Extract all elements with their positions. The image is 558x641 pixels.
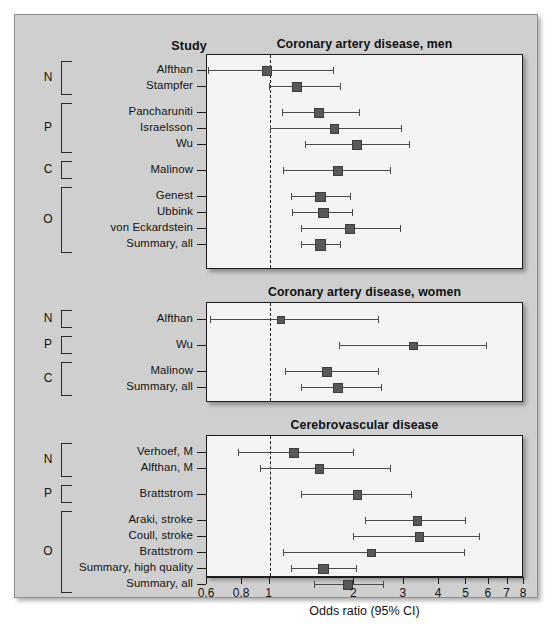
- x-axis-tick: [488, 577, 489, 584]
- ci-cap-lower: [291, 193, 292, 200]
- row-tick: [197, 196, 206, 197]
- ci-cap-lower: [301, 241, 302, 248]
- row-tick: [197, 144, 206, 145]
- ci-cap-upper: [390, 167, 391, 174]
- ci-cap-lower: [292, 209, 293, 216]
- ci-cap-upper: [352, 209, 353, 216]
- ci-cap-lower: [301, 225, 302, 232]
- study-label: Brattstrom: [139, 487, 193, 499]
- x-axis-tick: [403, 577, 404, 584]
- row-tick: [197, 371, 206, 372]
- row-tick: [197, 552, 206, 553]
- row-tick: [197, 468, 206, 469]
- ci-cap-lower: [301, 384, 302, 391]
- ci-cap-upper: [356, 565, 357, 572]
- ci-cap-lower: [238, 449, 239, 456]
- x-axis-tick: [206, 577, 207, 584]
- confidence-interval: [260, 468, 390, 469]
- plot-area: [206, 54, 523, 269]
- ci-cap-lower: [285, 368, 286, 375]
- ci-cap-upper: [378, 316, 379, 323]
- study-label: Summary, all: [126, 380, 193, 392]
- ci-cap-lower: [353, 533, 354, 540]
- ci-cap-lower: [282, 109, 283, 116]
- ci-cap-upper: [340, 83, 341, 90]
- odds-ratio-marker: [314, 108, 324, 118]
- study-label: Wu: [176, 338, 193, 350]
- row-tick: [197, 319, 206, 320]
- x-axis-tick-label: 2: [338, 586, 368, 600]
- ci-cap-upper: [464, 549, 465, 556]
- row-tick: [197, 170, 206, 171]
- study-label: Summary, all: [126, 237, 193, 249]
- row-tick: [197, 212, 206, 213]
- odds-ratio-marker: [415, 532, 424, 541]
- row-tick: [197, 568, 206, 569]
- study-label: Alfthan: [157, 63, 193, 75]
- ci-cap-upper: [350, 193, 351, 200]
- ci-cap-lower: [210, 316, 211, 323]
- group-bracket: [61, 187, 72, 253]
- study-label: Genest: [156, 189, 193, 201]
- ci-cap-lower: [339, 342, 340, 349]
- figure-frame: Study Coronary artery disease, menAlftha…: [14, 14, 538, 598]
- study-label: Malinow: [151, 163, 193, 175]
- ci-cap-upper: [353, 449, 354, 456]
- ci-cap-upper: [409, 141, 410, 148]
- group-letter: N: [41, 452, 55, 466]
- x-axis-tick: [438, 577, 439, 584]
- ci-cap-lower: [269, 83, 270, 90]
- x-axis-tick-label: 0.8: [226, 586, 256, 600]
- ci-cap-upper: [411, 491, 412, 498]
- ci-cap-upper: [333, 67, 334, 74]
- ci-cap-upper: [390, 465, 391, 472]
- odds-ratio-marker: [409, 342, 418, 351]
- study-label: Alfthan: [157, 312, 193, 324]
- ci-cap-upper: [340, 241, 341, 248]
- odds-ratio-marker: [333, 383, 343, 393]
- group-letter: O: [41, 544, 55, 558]
- null-reference-line: [270, 303, 271, 401]
- forest-plot-figure: Study Coronary artery disease, menAlftha…: [0, 0, 558, 641]
- odds-ratio-marker: [315, 192, 326, 203]
- ci-cap-lower: [270, 125, 271, 132]
- row-tick: [197, 584, 206, 585]
- row-tick: [197, 112, 206, 113]
- study-label: Alfthan, M: [141, 461, 193, 473]
- group-letter: N: [41, 311, 55, 325]
- study-label: Pancharuniti: [128, 105, 193, 117]
- row-tick: [197, 494, 206, 495]
- x-axis-tick-label: 3: [388, 586, 418, 600]
- panel-title: Coronary artery disease, men: [206, 37, 523, 51]
- study-label: Stampfer: [146, 79, 193, 91]
- x-axis-line: [206, 577, 523, 578]
- group-bracket: [61, 310, 72, 328]
- group-letter: P: [41, 337, 55, 351]
- confidence-interval: [210, 319, 378, 320]
- ci-cap-upper: [401, 125, 402, 132]
- odds-ratio-marker: [315, 239, 326, 250]
- plot-area: [206, 435, 523, 577]
- x-axis-tick: [507, 577, 508, 584]
- odds-ratio-marker: [315, 464, 324, 473]
- odds-ratio-marker: [292, 82, 303, 93]
- group-letter: C: [41, 162, 55, 176]
- row-tick: [197, 536, 206, 537]
- group-bracket: [61, 511, 72, 593]
- group-bracket: [61, 362, 72, 396]
- ci-cap-lower: [260, 465, 261, 472]
- row-tick: [197, 128, 206, 129]
- confidence-interval: [269, 86, 341, 87]
- odds-ratio-marker: [318, 564, 329, 575]
- row-tick: [197, 228, 206, 229]
- odds-ratio-marker: [333, 166, 343, 176]
- x-axis-tick: [353, 577, 354, 584]
- group-letter: C: [41, 371, 55, 385]
- group-bracket: [61, 103, 72, 153]
- odds-ratio-marker: [413, 516, 423, 526]
- x-axis-tick-label: 8: [508, 586, 538, 600]
- ci-cap-lower: [365, 517, 366, 524]
- row-tick: [197, 244, 206, 245]
- study-label: Summary, all: [126, 577, 193, 589]
- odds-ratio-marker: [345, 224, 355, 234]
